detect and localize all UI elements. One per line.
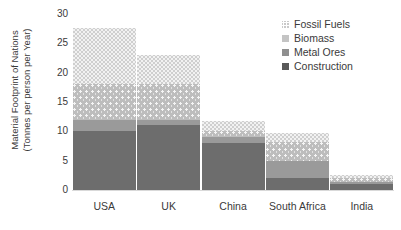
legend-label: Biomass: [294, 31, 334, 45]
y-axis-tick-15: 15: [44, 97, 68, 107]
stacked-bar-chart: Material Footprint of Nations (Tonnes pe…: [0, 0, 401, 230]
x-axis-label-uk: UK: [136, 196, 200, 216]
x-axis-label-china: China: [201, 196, 265, 216]
y-axis-tick-25: 25: [44, 38, 68, 48]
stacked-bar[interactable]: [137, 55, 200, 190]
x-axis-line: [72, 190, 394, 191]
bar-segment-fossil[interactable]: [202, 121, 265, 131]
y-axis-title: Material Footprint of Nations (Tonnes pe…: [9, 0, 33, 185]
legend-swatch-biomass-icon: [282, 35, 289, 42]
x-axis-label-usa: USA: [72, 196, 136, 216]
legend-item-metal[interactable]: Metal Ores: [282, 45, 400, 59]
legend-item-fossil[interactable]: Fossil Fuels: [282, 17, 400, 31]
legend-label: Fossil Fuels: [294, 17, 350, 31]
stacked-bar[interactable]: [330, 175, 393, 190]
bar-column-china[interactable]: [201, 14, 265, 190]
bar-segment-construction[interactable]: [137, 125, 200, 190]
stacked-bar[interactable]: [266, 133, 329, 190]
x-axis-label-india: India: [330, 196, 394, 216]
bar-segment-fossil[interactable]: [137, 55, 200, 84]
bar-segment-biomass[interactable]: [73, 84, 136, 119]
legend: Fossil FuelsBiomassMetal OresConstructio…: [282, 17, 400, 73]
bar-segment-construction[interactable]: [330, 184, 393, 190]
y-axis-title-line1: Material Footprint of Nations: [9, 0, 21, 185]
bar-segment-metal[interactable]: [266, 161, 329, 179]
x-axis-label-south-africa: South Africa: [265, 196, 329, 216]
bar-segment-fossil[interactable]: [266, 133, 329, 142]
legend-label: Metal Ores: [294, 45, 345, 59]
bar-column-uk[interactable]: [136, 14, 200, 190]
legend-item-biomass[interactable]: Biomass: [282, 31, 400, 45]
legend-item-construction[interactable]: Construction: [282, 59, 400, 73]
bar-segment-construction[interactable]: [266, 178, 329, 190]
y-axis-tick-20: 20: [44, 68, 68, 78]
x-axis-category-labels: USAUKChinaSouth AfricaIndia: [72, 196, 394, 216]
stacked-bar[interactable]: [202, 121, 265, 190]
legend-swatch-fossil-icon: [282, 21, 289, 28]
y-axis-tick-5: 5: [44, 156, 68, 166]
y-axis-tick-10: 10: [44, 126, 68, 136]
legend-swatch-construction-icon: [282, 63, 289, 70]
bar-segment-fossil[interactable]: [73, 28, 136, 84]
bar-segment-construction[interactable]: [202, 143, 265, 190]
bar-segment-biomass[interactable]: [266, 142, 329, 161]
stacked-bar[interactable]: [73, 28, 136, 190]
bar-segment-metal[interactable]: [73, 120, 136, 132]
bar-segment-biomass[interactable]: [137, 84, 200, 119]
bar-column-usa[interactable]: [72, 14, 136, 190]
y-axis-title-line2: (Tonnes per person per Year): [21, 0, 33, 185]
y-axis-tick-labels: 051015202530: [44, 0, 68, 230]
y-axis-tick-30: 30: [44, 9, 68, 19]
bar-segment-construction[interactable]: [73, 131, 136, 190]
legend-swatch-metal-icon: [282, 49, 289, 56]
legend-label: Construction: [294, 59, 353, 73]
y-axis-tick-0: 0: [44, 185, 68, 195]
